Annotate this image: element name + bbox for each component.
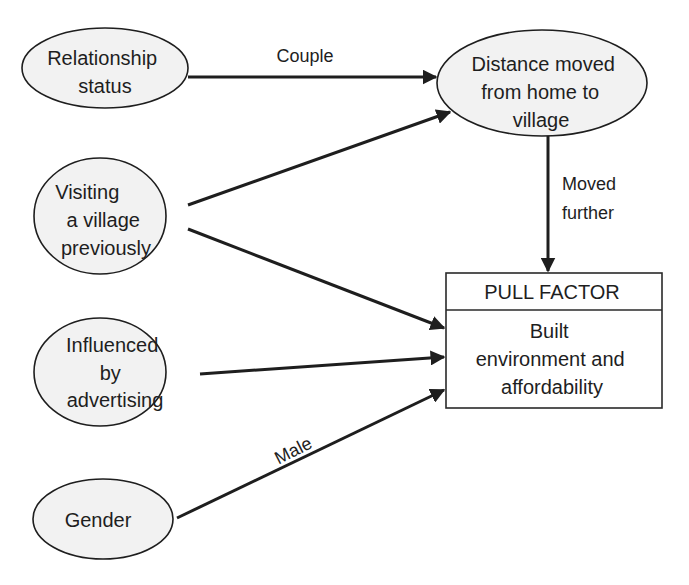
edge-label-couple: Couple <box>276 46 333 66</box>
node-relationship-status: Relationship status <box>22 28 188 108</box>
node-label-line: Gender <box>65 509 132 531</box>
box-body-line: Built <box>530 320 569 342</box>
edge-influenced-to-pullfactor <box>200 357 444 374</box>
edge-label-moved-further: Moved further <box>562 174 621 223</box>
node-label-line: advertising <box>67 389 164 411</box>
node-label-line: by <box>100 362 121 384</box>
node-label-line: from home to <box>481 81 599 103</box>
node-label-line: Relationship <box>47 47 157 69</box>
edge-label-moved-line-2: further <box>562 203 614 223</box>
box-body-line: affordability <box>501 376 603 398</box>
edge-label-moved-line-1: Moved <box>562 174 616 194</box>
node-label-line: Influenced <box>66 334 158 356</box>
node-label-line: status <box>78 75 131 97</box>
edge-visiting-to-distance <box>188 112 450 205</box>
node-label-line: village <box>513 109 570 131</box>
edge-visiting-to-pullfactor <box>188 229 444 328</box>
node-pull-factor: PULL FACTOR Built environment and afford… <box>446 273 662 408</box>
path-diagram: Couple Male Moved further Relationship s… <box>0 0 689 585</box>
node-label-line: Distance moved <box>472 53 615 75</box>
node-label-line: a village <box>67 209 140 231</box>
svg-text:Gender: Gender <box>65 509 132 531</box>
node-gender: Gender <box>33 479 173 559</box>
node-distance-moved: Distance moved from home to village <box>437 30 647 136</box>
box-body-line: environment and <box>476 348 625 370</box>
box-header: PULL FACTOR <box>484 281 620 303</box>
node-label-line: previously <box>61 237 151 259</box>
node-influenced-advertising: Influenced by advertising <box>34 318 166 426</box>
edge-gender-to-pullfactor <box>177 390 444 518</box>
node-visiting-village: Visiting a village previously <box>34 158 166 274</box>
node-label-line: Visiting <box>55 181 119 203</box>
